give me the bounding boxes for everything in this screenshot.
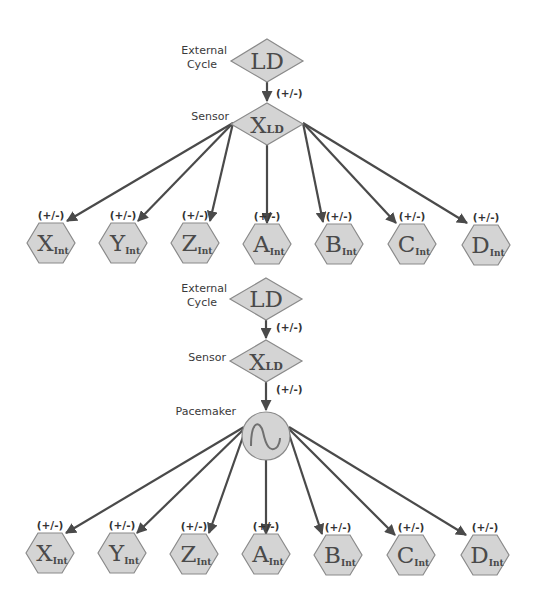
edge-sign: (+/-) — [182, 209, 209, 221]
output-node-d: DInt (+/-) — [461, 521, 509, 575]
edge-sign: (+/-) — [398, 521, 425, 533]
edge-sign: (+/-) — [254, 210, 281, 222]
edge-sensor-to-x — [67, 123, 233, 221]
node-sub: Int — [197, 557, 213, 567]
output-node-y: YInt (+/-) — [99, 209, 147, 263]
node-main: A — [252, 231, 270, 257]
edge-sign: (+/-) — [253, 520, 280, 532]
node-main: Y — [109, 230, 126, 256]
external-cycle-node: LD — [231, 39, 303, 82]
output-node-c: CInt (+/-) — [388, 210, 436, 264]
external-label-line1: External — [181, 282, 227, 295]
edge-sign: (+/-) — [326, 210, 353, 222]
node-main: Z — [182, 230, 198, 256]
sensor-label: Sensor — [191, 110, 229, 123]
external-label-line2: Cycle — [187, 58, 217, 71]
edge-sign: (+/-) — [181, 520, 208, 532]
edge-sensor-to-y — [138, 123, 233, 221]
node-sub: Int — [53, 556, 69, 566]
node-main: X — [37, 230, 54, 256]
node-main: X — [250, 112, 267, 138]
sensor-node: XLD — [231, 103, 303, 145]
output-node-c: CInt (+/-) — [387, 521, 435, 575]
node-label: LD — [249, 286, 283, 312]
edge-sign: (+/-) — [110, 209, 137, 221]
edge-sign: (+/-) — [399, 210, 426, 222]
node-main: D — [471, 232, 489, 258]
sensor-node: XLD — [230, 340, 302, 382]
node-main: X — [249, 349, 266, 375]
edge-sensor-to-d — [303, 123, 467, 223]
node-sub: LD — [267, 123, 285, 136]
edge-sign: (+/-) — [38, 209, 65, 221]
edge-sign: (+/-) — [109, 519, 136, 531]
circle-shape — [242, 412, 290, 460]
node-main: Z — [181, 541, 197, 567]
bottom-diagram: (+/-) (+/-) LD External Cycle XLD Sensor… — [26, 278, 509, 575]
node-sub: LD — [266, 360, 284, 373]
edge-sign: (+/-) — [37, 519, 64, 531]
edge-sign: (+/-) — [276, 321, 303, 333]
pacemaker-node — [242, 412, 290, 460]
output-node-x: XInt (+/-) — [26, 519, 74, 573]
node-sub: Int — [414, 558, 430, 568]
circadian-diagram: (+/-) LD External Cycle XLD Sensor XInt … — [0, 0, 535, 603]
node-sub: Int — [489, 558, 505, 568]
node-sub: Int — [124, 556, 140, 566]
node-sub: Int — [125, 246, 141, 256]
output-node-a: AInt (+/-) — [243, 210, 291, 264]
node-sub: Int — [270, 247, 286, 257]
node-main: B — [324, 542, 341, 568]
output-node-y: YInt (+/-) — [98, 519, 146, 573]
node-sub: Int — [341, 558, 357, 568]
node-sub: Int — [269, 557, 285, 567]
node-main: X — [36, 540, 53, 566]
edge-sign: (+/-) — [472, 521, 499, 533]
node-main: A — [251, 541, 269, 567]
output-node-x: XInt (+/-) — [27, 209, 75, 263]
node-main: C — [397, 542, 415, 568]
node-sub: Int — [490, 248, 506, 258]
edge-sensor-to-z — [210, 123, 233, 221]
output-node-d: DInt (+/-) — [462, 211, 510, 265]
external-label-line1: External — [181, 44, 227, 57]
external-cycle-node: LD — [230, 278, 302, 320]
edge-sensor-to-b — [303, 123, 323, 222]
node-main: D — [470, 542, 488, 568]
edge-sign: (+/-) — [276, 87, 303, 99]
node-sub: Int — [342, 247, 358, 257]
node-sub: Int — [54, 246, 70, 256]
edge-sign: (+/-) — [276, 383, 303, 395]
node-sub: Int — [415, 247, 431, 257]
top-diagram: (+/-) LD External Cycle XLD Sensor XInt … — [27, 39, 510, 265]
node-main: C — [398, 231, 416, 257]
node-sub: Int — [198, 246, 214, 256]
edge-pacemaker-to-x — [66, 427, 244, 533]
output-node-a: AInt (+/-) — [242, 520, 290, 574]
node-main: B — [325, 231, 342, 257]
node-main: Y — [108, 540, 125, 566]
sensor-label: Sensor — [188, 351, 226, 364]
edge-sensor-to-c — [303, 123, 396, 223]
node-label: LD — [250, 48, 284, 74]
edge-sign: (+/-) — [473, 211, 500, 223]
pacemaker-label: Pacemaker — [176, 405, 237, 418]
edge-sign: (+/-) — [325, 521, 352, 533]
external-label-line2: Cycle — [187, 296, 217, 309]
